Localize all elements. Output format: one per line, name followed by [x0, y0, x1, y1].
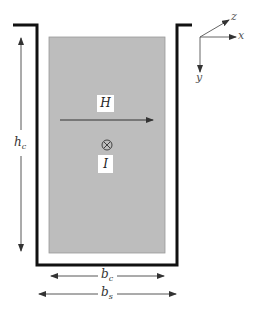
conductor-width-label: bc [101, 267, 113, 286]
axis-x-label: x [238, 29, 244, 42]
conductor-width-symbol: b [101, 267, 109, 281]
conductor-height-subscript: c [22, 142, 26, 151]
slot-width-subscript: s [109, 292, 113, 301]
slot-diagram [0, 0, 257, 315]
axis-z-label: z [231, 10, 237, 23]
axis-y-label: y [196, 71, 202, 84]
current-label: I [98, 155, 113, 173]
conductor-height-label: hc [14, 135, 26, 154]
slot-width-label: bs [101, 285, 113, 304]
slot-width-symbol: b [101, 285, 109, 299]
conductor-width-subscript: c [109, 274, 113, 283]
coordinate-axes-icon [200, 20, 236, 72]
conductor-height-symbol: h [14, 135, 22, 149]
field-label: H [97, 95, 114, 112]
